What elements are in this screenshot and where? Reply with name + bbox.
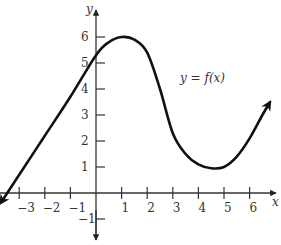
curve-label: y = f(x) bbox=[179, 71, 225, 85]
x-tick-label: 1 bbox=[122, 201, 130, 215]
x-tick-label: 3 bbox=[173, 201, 181, 215]
y-axis-label: y bbox=[85, 2, 93, 16]
x-tick-label: 4 bbox=[198, 201, 206, 215]
y-tick-label: 3 bbox=[81, 108, 89, 122]
x-tick-label: 2 bbox=[147, 201, 155, 215]
y-tick-label: −1 bbox=[78, 212, 96, 226]
y-tick-label: 6 bbox=[81, 30, 89, 44]
y-axis-ticks: −1123456 bbox=[78, 30, 105, 226]
x-axis-ticks: −3−2−1123456 bbox=[17, 187, 257, 215]
y-tick-label: 1 bbox=[81, 160, 89, 174]
x-axis-label: x bbox=[272, 195, 279, 209]
y-tick-label: 2 bbox=[81, 134, 89, 148]
x-tick-label: 6 bbox=[250, 201, 258, 215]
x-tick-label: −3 bbox=[17, 201, 35, 215]
x-tick-label: 5 bbox=[224, 201, 232, 215]
function-graph: −3−2−1123456 −1123456 x y y = f(x) bbox=[0, 0, 281, 245]
x-tick-label: −2 bbox=[43, 201, 61, 215]
curve-f bbox=[4, 37, 270, 198]
y-tick-label: 4 bbox=[81, 82, 89, 96]
